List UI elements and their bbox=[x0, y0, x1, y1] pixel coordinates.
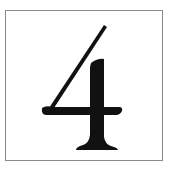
digit-four-glyph: 4 bbox=[6, 11, 162, 160]
digit-card: 4 bbox=[5, 10, 163, 161]
